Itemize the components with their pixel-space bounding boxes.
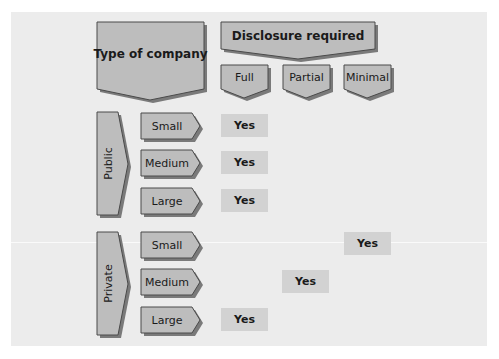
column-full-label: Full <box>221 65 268 89</box>
type-of-company-label: Type of company <box>97 16 204 92</box>
public-size-small-label: Small <box>141 113 193 139</box>
type-of-company-header: Type of company <box>97 22 204 98</box>
column-header-full: Full <box>221 65 268 98</box>
cell-public-large-full: Yes <box>221 189 268 212</box>
private-size-large-label: Large <box>141 307 193 333</box>
private-size-medium-label: Medium <box>141 269 193 295</box>
private-size-small-label: Small <box>141 232 193 258</box>
public-size-medium-label: Medium <box>141 150 193 176</box>
public-size-small: Small <box>141 113 200 139</box>
group-public-label: Public <box>102 147 115 180</box>
private-size-large: Large <box>141 307 200 333</box>
public-size-medium: Medium <box>141 150 200 176</box>
cell-private-large-full: Yes <box>221 308 268 331</box>
disclosure-required-label: Disclosure required <box>221 22 375 49</box>
group-private: Private <box>97 232 129 335</box>
column-minimal-label: Minimal <box>344 65 391 89</box>
cell-public-medium-full: Yes <box>221 151 268 174</box>
public-size-large-label: Large <box>141 188 193 214</box>
column-header-minimal: Minimal <box>344 65 391 98</box>
private-size-medium: Medium <box>141 269 200 295</box>
cell-public-small-full: Yes <box>221 114 268 137</box>
group-public: Public <box>97 112 129 215</box>
cell-private-small-minimal: Yes <box>344 232 391 255</box>
group-private-label: Private <box>102 264 115 302</box>
private-size-small: Small <box>141 232 200 258</box>
diagram-panel <box>11 12 487 346</box>
public-size-large: Large <box>141 188 200 214</box>
scan-line <box>11 242 487 243</box>
cell-private-medium-partial: Yes <box>282 270 329 293</box>
column-partial-label: Partial <box>283 65 330 89</box>
column-header-partial: Partial <box>283 65 330 98</box>
disclosure-required-header: Disclosure required <box>221 22 375 56</box>
